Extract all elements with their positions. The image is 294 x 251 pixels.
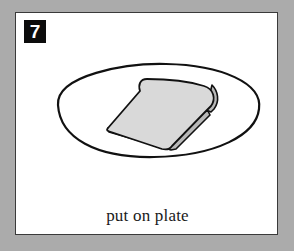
step-caption: put on plate bbox=[16, 206, 279, 226]
instruction-card: 7 put on plate bbox=[15, 12, 278, 235]
plate-with-bread-illustration bbox=[16, 13, 279, 236]
bread-slice-icon bbox=[107, 79, 218, 150]
